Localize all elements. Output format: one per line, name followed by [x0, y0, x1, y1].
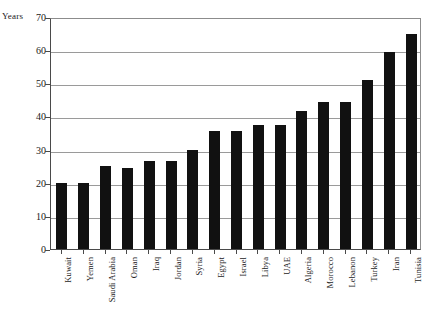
bar [318, 102, 329, 249]
y-axis-tick-label: 70 [22, 13, 46, 23]
bar [78, 183, 89, 249]
bar [384, 52, 395, 249]
y-axis-tick-label: 20 [22, 179, 46, 189]
bar [406, 34, 417, 249]
bar [231, 131, 242, 249]
x-axis-category-label: UAE [283, 257, 292, 275]
bar [296, 111, 307, 249]
bar-group [51, 19, 420, 249]
x-axis-tick-mark [323, 250, 324, 254]
x-axis-tick-mark [236, 250, 237, 254]
bar [122, 168, 133, 249]
x-axis-category-label: Kuwait [64, 257, 73, 283]
bar [340, 102, 351, 249]
x-axis-category-label: Oman [130, 257, 139, 278]
x-axis-category-label: Tunisia [414, 257, 423, 283]
x-axis-tick-mark [410, 250, 411, 254]
x-axis-tick-mark [301, 250, 302, 254]
x-axis-tick-mark [279, 250, 280, 254]
bar [166, 161, 177, 249]
x-axis-category-label: Israel [239, 257, 248, 276]
x-axis-category-label: Jordan [174, 257, 183, 280]
x-axis-tick-mark [192, 250, 193, 254]
x-axis-category-label: Yemen [86, 257, 95, 281]
bar-chart-figure: Years 706050403020100 KuwaitYemenSaudi A… [0, 0, 443, 320]
y-axis-tick-label: 40 [22, 112, 46, 122]
x-axis-tick-mark [257, 250, 258, 254]
x-axis-category-label: Morocco [326, 257, 335, 288]
x-axis-tick-mark [105, 250, 106, 254]
bar [253, 125, 264, 249]
x-axis-category-label: Libya [261, 257, 270, 277]
x-axis-tick-mark [61, 250, 62, 254]
x-axis-category-label: Syria [195, 257, 204, 275]
x-axis-tick-mark [170, 250, 171, 254]
x-axis-tick-mark [345, 250, 346, 254]
x-axis-tick-mark [126, 250, 127, 254]
y-axis-tick-label: 50 [22, 79, 46, 89]
plot-area [50, 18, 421, 250]
x-axis-category-label: Lebanon [348, 257, 357, 287]
x-axis-tick-mark [366, 250, 367, 254]
bar [362, 80, 373, 249]
x-axis-category-label: Egypt [217, 257, 226, 278]
bar [209, 131, 220, 249]
x-axis-category-label: Iran [392, 257, 401, 271]
y-axis-tick-mark [45, 250, 50, 251]
y-axis-tick-label: 60 [22, 46, 46, 56]
y-axis-unit-label: Years [2, 11, 23, 21]
x-axis-category-label: Algeria [304, 257, 313, 283]
y-axis-tick-label: 30 [22, 146, 46, 156]
x-axis-category-label: Turkey [370, 257, 379, 282]
bar [100, 166, 111, 249]
bar [187, 150, 198, 249]
bar [275, 125, 286, 249]
x-axis-tick-mark [148, 250, 149, 254]
x-axis-tick-mark [214, 250, 215, 254]
bar [144, 161, 155, 249]
x-axis-tick-mark [388, 250, 389, 254]
bar [56, 183, 67, 249]
y-axis-tick-label: 10 [22, 212, 46, 222]
x-axis-category-label: Iraq [152, 257, 161, 271]
x-axis-tick-mark [83, 250, 84, 254]
x-axis-category-label: Saudi Arabia [108, 257, 117, 302]
y-axis-tick-label: 0 [22, 245, 46, 255]
